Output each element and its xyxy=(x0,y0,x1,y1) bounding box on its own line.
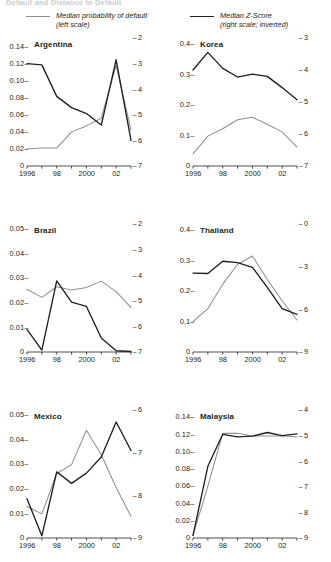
ytick-right-dash-icon: – xyxy=(133,348,137,355)
series-line-z-score xyxy=(27,60,131,141)
ytick-left-thailand-1: 0.3 xyxy=(166,257,190,264)
xtick-malaysia-6: 02 xyxy=(278,542,286,549)
ytick-left-dash-icon: – xyxy=(24,460,28,467)
ytick-left-korea-1: 0.3 xyxy=(166,71,190,78)
series-line-z-score xyxy=(27,422,131,536)
ytick-right-dash-icon: – xyxy=(133,60,137,67)
panel-thailand: Thailand0.4–0.3–0.2–0.1–0–0–3–6–91996982… xyxy=(166,222,324,382)
figure-legend: Median probability of default (left scal… xyxy=(0,11,331,33)
ytick-left-malaysia-3: 0.08 xyxy=(166,465,190,472)
ytick-right-malaysia-4: 8 xyxy=(304,509,308,516)
legend-swatch-black-line-icon xyxy=(190,16,214,17)
ytick-left-malaysia-4: 0.06 xyxy=(166,482,190,489)
xtick-korea-6: 02 xyxy=(278,170,286,177)
xtick-argentina-2: 98 xyxy=(53,170,61,177)
xtick-malaysia-2: 98 xyxy=(219,542,227,549)
ytick-right-dash-icon: – xyxy=(133,220,137,227)
panel-korea: Korea0.4–0.3–0.2–0.1–0–3–4–5–6–719969820… xyxy=(166,36,324,196)
ytick-left-korea-2: 0.2 xyxy=(166,101,190,108)
xtick-malaysia-4: 2000 xyxy=(244,542,260,549)
legend-line2: (left scale) xyxy=(56,20,90,29)
ytick-right-dash-icon: – xyxy=(299,432,303,439)
ytick-right-dash-icon: – xyxy=(133,111,137,118)
xtick-thailand-4: 2000 xyxy=(244,356,260,363)
series-line-z-score xyxy=(193,52,297,99)
ytick-right-malaysia-1: 5 xyxy=(304,432,308,439)
ytick-right-dash-icon: – xyxy=(133,162,137,169)
ytick-right-dash-icon: – xyxy=(133,406,137,413)
plot-area-thailand xyxy=(193,224,297,352)
ytick-left-dash-icon: – xyxy=(190,40,194,47)
panel-mexico: Mexico0.05–0.04–0.03–0.02–0.01–0–6–7–8–9… xyxy=(0,408,158,562)
ytick-left-thailand-2: 0.2 xyxy=(166,287,190,294)
ytick-right-korea-4: 7 xyxy=(304,162,308,169)
ytick-left-malaysia-0: 0.14 xyxy=(166,413,190,420)
xtick-argentina-6: 02 xyxy=(112,170,120,177)
plot-area-argentina xyxy=(27,38,131,166)
xtick-thailand-0: 1996 xyxy=(185,356,201,363)
ytick-left-dash-icon: – xyxy=(24,60,28,67)
ytick-left-dash-icon: – xyxy=(190,101,194,108)
ytick-right-argentina-2: 4 xyxy=(138,86,142,93)
ytick-left-dash-icon: – xyxy=(190,448,194,455)
series-line-probability-of-default xyxy=(27,430,131,516)
ytick-left-korea-0: 0.4 xyxy=(166,40,190,47)
ytick-right-dash-icon: – xyxy=(133,492,137,499)
ytick-right-dash-icon: – xyxy=(133,297,137,304)
ytick-left-argentina-2: 0.10 xyxy=(0,77,24,84)
ytick-right-dash-icon: – xyxy=(133,34,137,41)
plot-area-mexico xyxy=(27,410,131,538)
ytick-right-korea-2: 5 xyxy=(304,98,308,105)
ytick-right-thailand-3: 9 xyxy=(304,348,308,355)
ytick-left-dash-icon: – xyxy=(24,111,28,118)
ytick-right-dash-icon: – xyxy=(299,509,303,516)
ytick-left-argentina-5: 0.04 xyxy=(0,128,24,135)
panel-malaysia: Malaysia0.14–0.12–0.10–0.08–0.06–0.04–0.… xyxy=(166,408,324,562)
figure-root: Default and Distance to Default Median p… xyxy=(0,0,331,562)
legend-item-probability-of-default: Median probability of default (left scal… xyxy=(26,11,147,29)
ytick-right-brazil-4: 6 xyxy=(138,323,142,330)
ytick-right-dash-icon: – xyxy=(299,66,303,73)
ytick-right-dash-icon: – xyxy=(133,323,137,330)
ytick-right-korea-3: 6 xyxy=(304,130,308,137)
ytick-right-korea-0: 3 xyxy=(304,34,308,41)
ytick-left-argentina-6: 0.02 xyxy=(0,145,24,152)
legend-label-z-score: Median Z-Score (right scale; inverted) xyxy=(220,11,288,29)
ytick-right-malaysia-2: 6 xyxy=(304,458,308,465)
ytick-right-malaysia-3: 7 xyxy=(304,483,308,490)
ytick-right-brazil-5: 7 xyxy=(138,348,142,355)
xtick-mexico-4: 2000 xyxy=(78,542,94,549)
ytick-right-dash-icon: – xyxy=(133,272,137,279)
series-line-probability-of-default xyxy=(193,433,297,535)
ytick-left-mexico-3: 0.02 xyxy=(0,485,24,492)
ytick-left-dash-icon: – xyxy=(190,413,194,420)
xtick-brazil-0: 1996 xyxy=(19,356,35,363)
ytick-left-dash-icon: – xyxy=(24,43,28,50)
series-line-z-score xyxy=(193,261,297,314)
ytick-right-brazil-3: 5 xyxy=(138,297,142,304)
series-line-probability-of-default xyxy=(27,65,131,149)
ytick-right-dash-icon: – xyxy=(299,306,303,313)
plot-area-brazil xyxy=(27,224,131,352)
ytick-left-malaysia-6: 0.02 xyxy=(166,517,190,524)
ytick-left-korea-3: 0.1 xyxy=(166,132,190,139)
ytick-left-thailand-0: 0.4 xyxy=(166,226,190,233)
ytick-left-dash-icon: – xyxy=(24,510,28,517)
ytick-left-dash-icon: – xyxy=(190,226,194,233)
ytick-right-brazil-0: 2 xyxy=(138,220,142,227)
xtick-argentina-4: 2000 xyxy=(78,170,94,177)
ytick-left-dash-icon: – xyxy=(190,465,194,472)
ytick-left-dash-icon: – xyxy=(24,299,28,306)
ytick-right-malaysia-0: 4 xyxy=(304,406,308,413)
series-line-probability-of-default xyxy=(193,256,297,322)
legend-line1: Median probability of default xyxy=(56,11,147,20)
xtick-brazil-6: 02 xyxy=(112,356,120,363)
ytick-left-brazil-4: 0.01 xyxy=(0,324,24,331)
ytick-left-dash-icon: – xyxy=(24,411,28,418)
ytick-left-dash-icon: – xyxy=(190,500,194,507)
ytick-left-dash-icon: – xyxy=(190,482,194,489)
ytick-right-dash-icon: – xyxy=(133,246,137,253)
legend-swatch-grey-line-icon xyxy=(26,16,50,17)
ytick-left-mexico-4: 0.01 xyxy=(0,510,24,517)
ytick-right-argentina-5: 7 xyxy=(138,162,142,169)
